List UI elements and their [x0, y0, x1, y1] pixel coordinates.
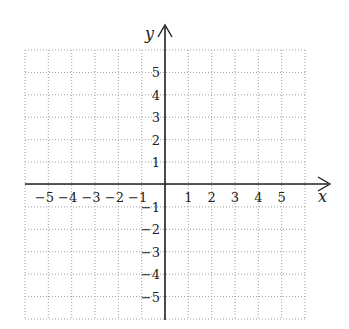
y-tick-label: 2	[152, 133, 160, 148]
y-axis-label: y	[144, 24, 155, 43]
x-tick-label: 1	[184, 190, 192, 205]
y-tick-label: −5	[141, 290, 160, 305]
coordinate-plane: x y −5−4−3−2−112345 54321−1−2−3−4−5	[0, 0, 349, 329]
y-tick-label: 1	[152, 155, 160, 170]
y-tick-label: −3	[141, 245, 160, 260]
x-tick-label: 3	[231, 190, 239, 205]
y-tick-label: 3	[152, 110, 160, 125]
y-tick-label: 4	[152, 88, 160, 103]
x-tick-label: 2	[208, 190, 216, 205]
y-tick-label: 5	[152, 65, 160, 80]
x-tick-label: 5	[278, 190, 286, 205]
y-tick-label: −4	[141, 267, 160, 282]
y-tick-label: −2	[141, 222, 160, 237]
x-tick-label: −5	[35, 190, 54, 205]
y-tick-label: −1	[141, 200, 160, 215]
x-axis-label: x	[318, 187, 327, 206]
x-tick-labels: −5−4−3−2−112345	[35, 190, 286, 205]
x-tick-label: −2	[105, 190, 124, 205]
x-tick-label: −3	[81, 190, 100, 205]
axes: x y	[25, 24, 330, 320]
x-tick-label: −4	[58, 190, 77, 205]
x-tick-label: 4	[254, 190, 262, 205]
